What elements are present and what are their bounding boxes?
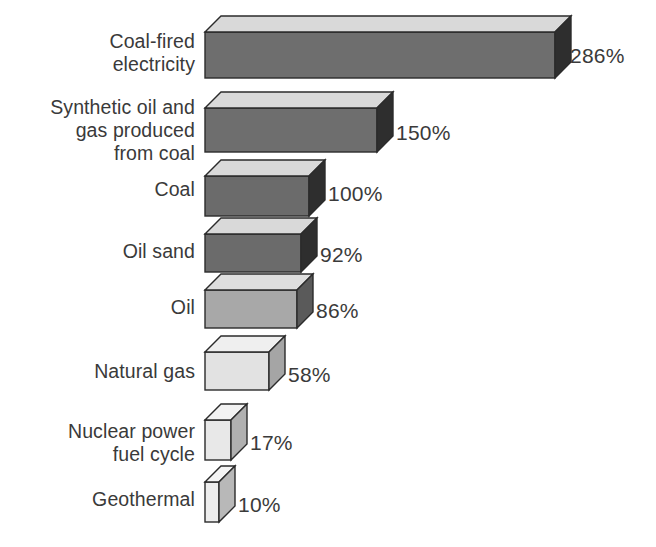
bar-top-face [205, 92, 393, 108]
category-label: Oil [25, 296, 195, 319]
bar-block [205, 274, 313, 328]
bar-front-face [205, 290, 297, 328]
bar-top-face [205, 218, 317, 234]
category-label: Coal [25, 178, 195, 201]
bar-block [205, 160, 325, 216]
value-label: 92% [320, 244, 363, 265]
bar-top-face [205, 16, 571, 32]
bar-block [205, 336, 285, 390]
bar-front-face [205, 234, 301, 272]
value-label: 17% [250, 432, 293, 453]
bar-block [205, 404, 247, 460]
category-label: Natural gas [25, 360, 195, 383]
value-label: 58% [288, 364, 331, 385]
value-label: 150% [396, 122, 451, 143]
bar-front-face [205, 420, 231, 460]
bar-block [205, 92, 393, 152]
bar-chart-figure: Coal-fired electricity286%Synthetic oil … [0, 0, 656, 547]
bar-top-face [205, 160, 325, 176]
bar-block [205, 466, 235, 522]
bar-front-face [205, 352, 269, 390]
bar-front-face [205, 108, 377, 152]
value-label: 10% [238, 494, 281, 515]
bar-front-face [205, 482, 219, 522]
category-label: Geothermal [25, 488, 195, 511]
value-label: 286% [570, 45, 625, 66]
bar-top-face [205, 274, 313, 290]
bar-front-face [205, 176, 309, 216]
category-label: Coal-fired electricity [25, 30, 195, 76]
category-label: Nuclear power fuel cycle [25, 420, 195, 466]
category-label: Oil sand [25, 240, 195, 263]
value-label: 100% [328, 183, 383, 204]
bar-block [205, 218, 317, 272]
category-label: Synthetic oil and gas produced from coal [10, 96, 195, 165]
value-label: 86% [316, 300, 359, 321]
bar-front-face [205, 32, 555, 78]
bar-block [205, 16, 571, 78]
